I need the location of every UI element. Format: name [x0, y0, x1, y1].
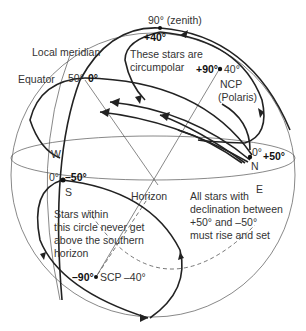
local-meridian-label: Local meridian [32, 46, 100, 58]
arrow-south-bottom [140, 314, 148, 322]
polaris-label: (Polaris) [218, 91, 257, 103]
zenith-point [158, 26, 162, 30]
west-label: W [51, 148, 61, 160]
ncp-dec-label: +90° [196, 63, 218, 75]
rise-set-note-line3: +50° and –50° [190, 216, 257, 228]
scp-dec-label: –90° [72, 271, 94, 283]
equator-alt-label: 50° [68, 72, 84, 84]
south-dec-label: –50° [65, 171, 87, 183]
equator-dec-label: 0° [88, 72, 98, 84]
south-alt-label: 0° [49, 171, 59, 183]
south-note-line4: horizon [54, 247, 89, 259]
circumpolar-top-dec-label: +40° [144, 31, 166, 43]
arrow-south-left [40, 252, 46, 260]
ncp-point [218, 67, 222, 71]
north-dec-label: +50° [263, 150, 285, 162]
arrow-1 [110, 98, 120, 107]
south-note-line2: this circle never get [54, 221, 145, 233]
rise-set-note-line4: must rise and set [190, 229, 270, 241]
equator-label: Equator [18, 73, 55, 85]
south-note-line3: above the southern [54, 234, 144, 246]
scp-point [94, 275, 98, 279]
equator-radius-line [85, 80, 158, 185]
zenith-label: 90° (zenith) [148, 14, 202, 26]
arrow-4 [135, 95, 142, 104]
north-label: N [251, 160, 259, 172]
east-label: E [256, 183, 263, 195]
celestial-sphere-diagram: 90° (zenith) Local meridian Equator 50° … [0, 0, 306, 331]
horizon-label: Horizon [131, 190, 167, 202]
rise-set-note-line2: declination between [190, 203, 283, 215]
ncp-label: NCP [220, 78, 242, 90]
rise-set-note-line1: All stars with [190, 190, 249, 202]
south-label: S [65, 186, 72, 198]
scp-alt-label: –40° [124, 271, 146, 283]
south-note-line1: Stars within [54, 208, 108, 220]
circumpolar-note-line2: circumpolar [130, 61, 185, 73]
star-path-2 [100, 112, 248, 162]
circumpolar-note-line1: These stars are [130, 48, 203, 60]
north-alt-label: 0° [252, 146, 262, 158]
scp-label: SCP [100, 271, 122, 283]
ncp-alt-label: 40° [224, 63, 240, 75]
